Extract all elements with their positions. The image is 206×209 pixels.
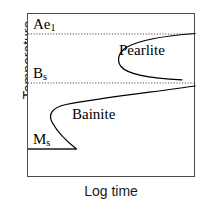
ttt-diagram: Temperature Ae1 Bs Ms Pearlite Bainite L… [0,0,206,209]
ae1-label: Ae1 [33,16,56,33]
bs-label-subscript: s [43,71,47,82]
plot-curves [28,14,196,178]
x-axis-label: Log time [27,183,195,199]
bainite-region-label: Bainite [72,106,115,123]
pearlite-region-label: Pearlite [119,42,165,59]
ae1-label-subscript: 1 [51,22,56,33]
bs-label-text: B [33,65,43,81]
ms-label-subscript: s [46,137,50,148]
ae1-label-text: Ae [33,16,51,32]
plot-area: Ae1 Bs Ms Pearlite Bainite [27,13,195,177]
ms-label: Ms [33,131,50,148]
ms-label-text: M [33,131,46,147]
bs-label: Bs [33,65,47,82]
